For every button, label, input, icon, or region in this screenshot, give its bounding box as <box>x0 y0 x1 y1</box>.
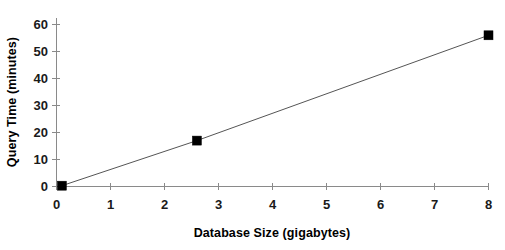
query-time-vs-database-size-chart: 60 50 40 30 20 10 0 0 1 2 3 4 5 6 7 8 Da… <box>0 0 505 250</box>
chart-canvas: 60 50 40 30 20 10 0 0 1 2 3 4 5 6 7 8 Da… <box>0 0 505 250</box>
y-tick-label: 10 <box>34 152 48 167</box>
data-point-marker <box>484 31 493 40</box>
x-tick-label: 5 <box>323 197 330 212</box>
x-tick-label: 4 <box>269 197 277 212</box>
x-tick-label: 2 <box>161 197 168 212</box>
y-tick-label: 50 <box>34 44 48 59</box>
y-tick-label: 0 <box>41 179 48 194</box>
x-tick-label: 6 <box>377 197 384 212</box>
data-point-marker <box>57 181 66 190</box>
x-tick-label: 0 <box>53 197 60 212</box>
y-tick-label: 60 <box>34 17 48 32</box>
y-tick-label: 20 <box>34 125 48 140</box>
x-tick-label: 1 <box>107 197 114 212</box>
x-tick-label: 8 <box>485 197 492 212</box>
x-tick-label: 3 <box>215 197 222 212</box>
x-tick-label: 7 <box>431 197 438 212</box>
data-point-marker <box>192 136 201 145</box>
y-axis-title: Query Time (minutes) <box>5 37 19 167</box>
x-axis-title: Database Size (gigabytes) <box>194 226 351 240</box>
y-tick-label: 40 <box>34 71 48 86</box>
chart-background <box>0 0 505 250</box>
y-tick-label: 30 <box>34 98 48 113</box>
